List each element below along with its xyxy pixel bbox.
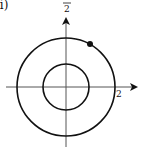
polar-diagram: ii) 2 2 [0,0,142,149]
right-axis-label: 2 [116,89,122,99]
top-axis-label: 2 [64,4,70,14]
plotted-point [87,41,93,47]
part-label: ii) [0,0,8,12]
